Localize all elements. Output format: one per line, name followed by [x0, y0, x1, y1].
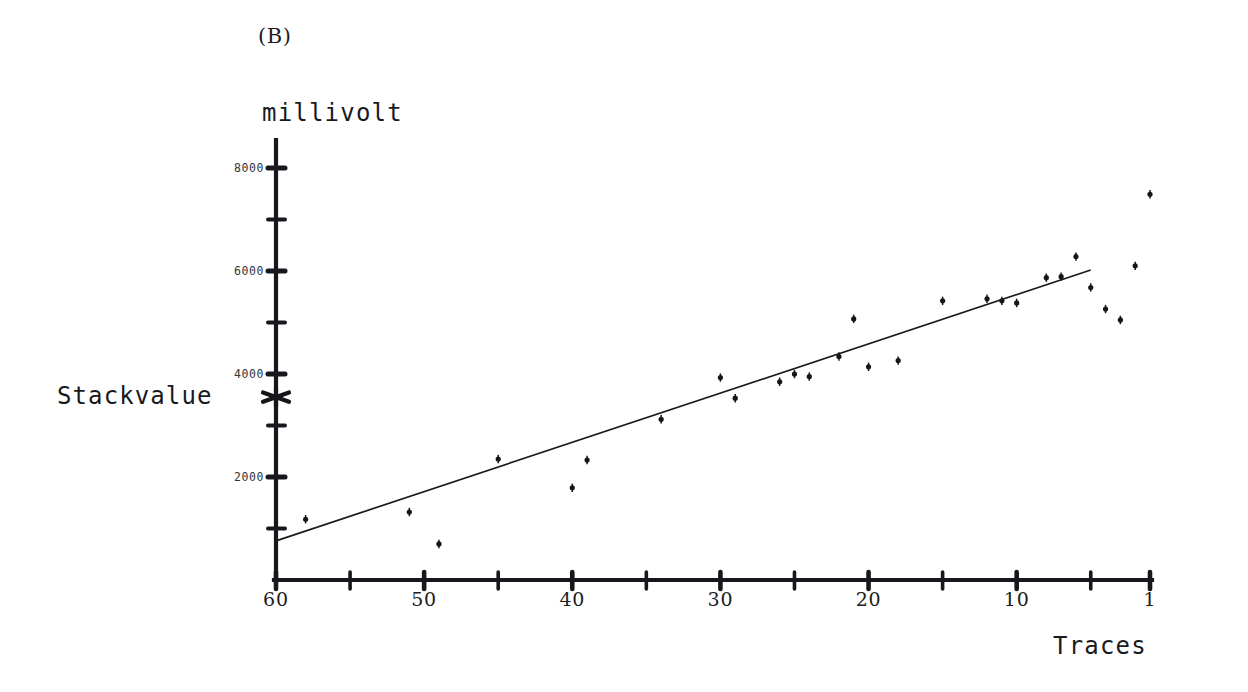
data-point	[1147, 190, 1152, 198]
regression-line	[276, 270, 1091, 541]
data-point	[866, 363, 871, 371]
axes-group	[274, 140, 1152, 581]
x-tick-label: 50	[411, 588, 437, 610]
data-point	[777, 378, 782, 386]
y-tick-label: 6000	[234, 264, 264, 278]
data-point	[807, 372, 812, 380]
data-points-group	[303, 190, 1153, 548]
y-tick-label: 8000	[234, 161, 264, 175]
data-point	[851, 315, 856, 323]
data-point	[896, 356, 901, 364]
data-point	[303, 515, 308, 523]
x-tick-label: 60	[263, 588, 289, 610]
data-point	[999, 297, 1004, 305]
data-point	[792, 370, 797, 378]
y-tick-label: 2000	[234, 470, 264, 484]
data-point	[718, 373, 723, 381]
data-point	[733, 394, 738, 402]
data-point	[659, 415, 664, 423]
data-point	[1014, 299, 1019, 307]
data-point	[1118, 316, 1123, 324]
figure-page: (B) millivolt Stackvalue Traces 20004000…	[0, 0, 1248, 692]
x-tick-label: 30	[708, 588, 734, 610]
x-tick-label: 20	[856, 588, 882, 610]
y-tick-label: 4000	[234, 367, 264, 381]
y-tick-labels-group: 2000400060008000	[234, 161, 264, 484]
x-tick-label: 10	[1004, 588, 1030, 610]
stackvalue-marker-icon	[263, 388, 289, 407]
data-point	[570, 484, 575, 492]
data-point	[1133, 262, 1138, 270]
data-point	[496, 455, 501, 463]
scatter-plot: 2000400060008000 6050403020101	[0, 0, 1248, 692]
data-point	[984, 295, 989, 303]
data-point	[940, 297, 945, 305]
data-point	[1044, 273, 1049, 281]
data-point	[1073, 252, 1078, 260]
x-tick-label: 1	[1144, 588, 1157, 610]
data-point	[584, 456, 589, 464]
x-tick-label: 40	[559, 588, 585, 610]
x-tick-labels-group: 6050403020101	[263, 588, 1156, 610]
data-point	[1088, 283, 1093, 291]
regression-line-segment	[276, 270, 1091, 541]
data-point	[1103, 305, 1108, 313]
data-point	[407, 508, 412, 516]
data-point	[436, 540, 441, 548]
